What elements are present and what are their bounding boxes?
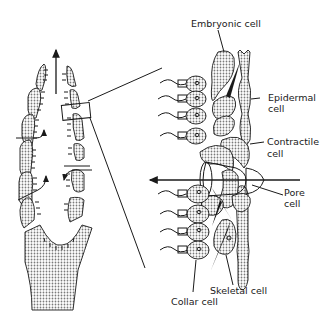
label-collar-cell: Collar cell (171, 296, 218, 307)
zoom-line-bottom (90, 118, 145, 268)
collar-cell (158, 108, 206, 124)
collar-cell (160, 128, 206, 144)
right-wall-seg-5 (71, 170, 84, 193)
label-epidermal-cell-line1: Epidermal (268, 92, 316, 103)
sponge-diagram: Embryonic cell Epidermal cell Contractil… (0, 0, 325, 314)
collar-cell (160, 205, 209, 223)
left-wall-seg-1 (36, 64, 46, 91)
embryonic-cell-2 (212, 96, 235, 119)
collar-cell (160, 76, 206, 92)
label-epidermal-cell-line2: cell (268, 103, 284, 114)
label-embryonic-cell: Embryonic cell (191, 18, 261, 29)
collar-cell (160, 223, 209, 241)
collar-cells-top (158, 76, 206, 144)
sponge-base (25, 225, 92, 310)
collar-cell (158, 185, 209, 203)
left-wall-seg-6 (20, 198, 35, 228)
collar-cell (160, 241, 209, 259)
label-skeletal-cell: Skeletal cell (210, 285, 267, 296)
magnified-detail: Embryonic cell Epidermal cell Contractil… (150, 18, 319, 307)
collar-cell (158, 91, 206, 107)
epidermal-cell-column-top (238, 50, 251, 146)
pore-cell-opening (246, 168, 264, 194)
label-contractile-cell-line2: cell (267, 148, 283, 159)
zoom-line-top (88, 68, 162, 101)
label-pore-cell-line2: cell (284, 198, 300, 209)
right-wall-seg-6 (68, 197, 84, 222)
label-pore-cell-line1: Pore (284, 187, 305, 198)
right-wall-seg-1 (67, 66, 76, 87)
right-wall-seg-3 (73, 114, 84, 141)
label-contractile-cell-line1: Contractile (267, 136, 319, 147)
right-wall-seg-4 (74, 144, 84, 161)
sponge-overview (16, 50, 162, 310)
collar-cells-bottom (158, 185, 209, 259)
embryonic-cell-3 (213, 116, 234, 136)
contractile-cell-2 (200, 145, 234, 172)
right-wall-seg-2 (70, 90, 80, 109)
